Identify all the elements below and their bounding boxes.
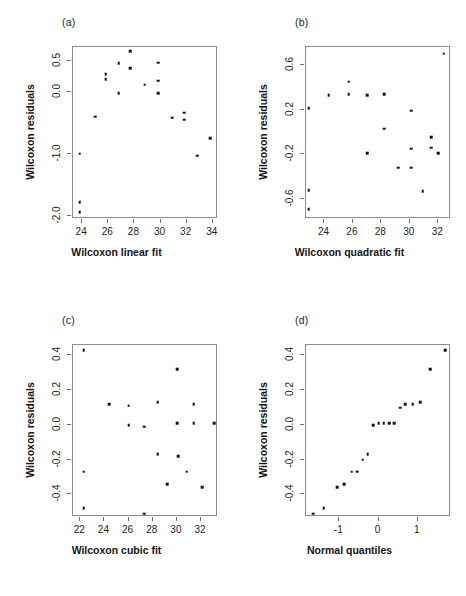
data-point xyxy=(336,486,339,489)
panel-d-points xyxy=(306,345,449,515)
data-point xyxy=(94,115,97,118)
x-axis-tick xyxy=(323,219,324,223)
x-axis-tick xyxy=(128,517,129,521)
y-axis-tick-label: 0.2 xyxy=(284,102,295,116)
y-axis-tick-label: 0.0 xyxy=(284,417,295,431)
data-point xyxy=(166,483,169,486)
y-axis-tick-label: -0.6 xyxy=(284,189,295,206)
x-axis-tick-label: 32 xyxy=(195,524,206,535)
y-axis-tick-label: -0.4 xyxy=(284,485,295,502)
data-point xyxy=(193,403,196,406)
y-axis-tick xyxy=(67,424,71,425)
data-point xyxy=(443,52,446,55)
panel-b: (b) Wilcoxon residuals Wilcoxon quadrati… xyxy=(233,0,466,298)
x-axis-tick xyxy=(176,517,177,521)
x-axis-tick xyxy=(378,517,379,521)
x-axis-tick-label: 26 xyxy=(346,226,357,237)
y-axis-tick-label: -0.4 xyxy=(51,485,62,502)
y-axis-tick-label: 0.2 xyxy=(284,382,295,396)
panel-d-x-axis-label: Normal quantiles xyxy=(233,544,466,556)
panel-a-tag: (a) xyxy=(62,16,75,28)
x-axis-tick-label: 34 xyxy=(206,226,217,237)
x-axis-tick xyxy=(200,517,201,521)
x-axis-tick-label: 0 xyxy=(375,524,381,535)
data-point xyxy=(437,152,440,155)
y-axis-tick-label: -0.2 xyxy=(284,450,295,467)
data-point xyxy=(127,405,130,408)
data-point xyxy=(327,94,330,97)
data-point xyxy=(157,79,160,82)
y-axis-tick xyxy=(67,354,71,355)
data-point xyxy=(176,422,179,425)
x-axis-tick-label: 24 xyxy=(318,226,329,237)
data-point xyxy=(347,80,350,83)
data-point xyxy=(183,118,186,121)
data-point xyxy=(382,422,385,425)
y-axis-tick xyxy=(300,459,304,460)
x-axis-tick xyxy=(352,219,353,223)
x-axis-tick-label: 24 xyxy=(98,524,109,535)
panel-b-tag: (b) xyxy=(295,16,308,28)
panel-d-plot-area xyxy=(305,344,450,516)
panel-c: (c) Wilcoxon residuals Wilcoxon cubic fi… xyxy=(0,298,233,596)
data-point xyxy=(388,422,391,425)
panel-c-tag: (c) xyxy=(62,314,75,326)
data-point xyxy=(129,50,132,53)
x-axis-tick-label: 28 xyxy=(146,524,157,535)
residual-diagnostics-figure: (a) Wilcoxon residuals Wilcoxon linear f… xyxy=(0,0,466,596)
x-axis-tick xyxy=(81,219,82,223)
data-point xyxy=(117,62,120,65)
data-point xyxy=(108,403,111,406)
data-point xyxy=(410,147,413,150)
data-point xyxy=(177,455,180,458)
data-point xyxy=(117,92,120,95)
panel-b-x-axis-label: Wilcoxon quadratic fit xyxy=(233,246,466,258)
y-axis-tick xyxy=(67,60,71,61)
data-point xyxy=(143,512,146,515)
data-point xyxy=(343,483,346,486)
panel-a-y-axis-label: Wilcoxon residuals xyxy=(24,84,36,180)
data-point xyxy=(156,453,159,456)
x-axis-tick-label: 28 xyxy=(375,226,386,237)
panel-a: (a) Wilcoxon residuals Wilcoxon linear f… xyxy=(0,0,233,298)
panel-a-x-axis-label: Wilcoxon linear fit xyxy=(0,246,233,258)
data-point xyxy=(347,93,350,96)
data-point xyxy=(176,368,179,371)
data-point xyxy=(383,127,386,130)
panel-c-points xyxy=(73,345,216,515)
y-axis-tick-label: 0.4 xyxy=(284,347,295,361)
data-point xyxy=(83,349,86,352)
data-point xyxy=(351,471,354,474)
data-point xyxy=(104,78,107,81)
data-point xyxy=(157,61,160,64)
data-point xyxy=(78,153,81,156)
y-axis-tick xyxy=(300,153,304,154)
y-axis-tick xyxy=(300,389,304,390)
data-point xyxy=(366,94,369,97)
x-axis-tick-label: -1 xyxy=(334,524,343,535)
x-axis-tick-label: 24 xyxy=(76,226,87,237)
data-point xyxy=(421,190,424,193)
data-point xyxy=(372,424,375,427)
y-axis-tick-label: -0.2 xyxy=(51,450,62,467)
panel-b-points xyxy=(306,47,449,217)
data-point xyxy=(104,73,107,76)
x-axis-tick-label: 28 xyxy=(128,226,139,237)
panel-d-y-axis-label: Wilcoxon residuals xyxy=(257,382,269,478)
x-axis-tick xyxy=(437,219,438,223)
panel-a-points xyxy=(73,47,216,217)
x-axis-tick-label: 22 xyxy=(74,524,85,535)
panel-b-y-axis-label: Wilcoxon residuals xyxy=(257,84,269,180)
x-axis-tick-label: 26 xyxy=(122,524,133,535)
data-point xyxy=(213,422,216,425)
y-axis-tick-label: -1.0 xyxy=(51,144,62,161)
panel-c-y-axis-label: Wilcoxon residuals xyxy=(24,382,36,478)
x-axis-tick-label: 1 xyxy=(414,524,420,535)
data-point xyxy=(157,92,160,95)
data-point xyxy=(393,422,396,425)
x-axis-tick xyxy=(79,517,80,521)
y-axis-tick xyxy=(67,91,71,92)
y-axis-tick xyxy=(300,493,304,494)
data-point xyxy=(312,512,315,515)
data-point xyxy=(411,403,414,406)
